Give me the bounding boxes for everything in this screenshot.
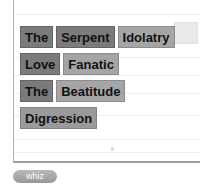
word-tile[interactable]: Serpent (56, 26, 114, 48)
word-tile[interactable]: The (20, 26, 53, 48)
faint-mark (111, 147, 114, 151)
rule-line (14, 139, 200, 140)
word-tile[interactable]: Idolatry (118, 26, 175, 48)
word-tile[interactable]: Love (20, 53, 60, 75)
word-bank-panel: The Serpent Idolatry Love Fanatic The Be… (13, 0, 200, 163)
word-tile[interactable]: The (20, 80, 53, 102)
word-row: The Beatitude (20, 80, 175, 102)
word-exercise-screen: The Serpent Idolatry Love Fanatic The Be… (0, 0, 200, 192)
word-tile-rows: The Serpent Idolatry Love Fanatic The Be… (20, 26, 175, 129)
ghost-tile (174, 22, 198, 44)
rule-line (14, 152, 200, 153)
word-tile[interactable]: Fanatic (63, 53, 119, 75)
word-row: The Serpent Idolatry (20, 26, 175, 48)
word-tile[interactable]: Beatitude (56, 80, 125, 102)
whiz-button[interactable]: whiz (13, 170, 57, 183)
word-row: Love Fanatic (20, 53, 175, 75)
word-tile[interactable]: Digression (20, 107, 97, 129)
word-row: Digression (20, 107, 175, 129)
rule-line (14, 14, 200, 15)
